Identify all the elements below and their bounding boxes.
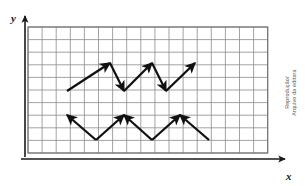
figure-container: y x Reprodução/ Arquivo da editora [0, 0, 305, 186]
grid-layer [28, 27, 268, 153]
vector-diagram: y x [0, 0, 305, 186]
y-axis-label: y [9, 12, 16, 24]
vectors-layer [67, 63, 209, 140]
axes-layer [21, 16, 285, 159]
x-axis-label: x [285, 170, 292, 182]
